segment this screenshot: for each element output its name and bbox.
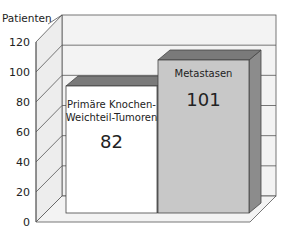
bar-side [249,50,261,213]
bar-label: Primäre Knochen- [67,99,156,110]
bar-top [66,76,169,86]
bar-front [158,60,249,213]
y-axis-ticks: 020406080100120 [9,36,30,229]
bar-label: Metastasen [175,68,233,79]
y-tick-label: 100 [9,66,30,79]
bar-label: Weichteil-Tumoren [66,112,158,123]
bar-2: Metastasen101 [158,50,261,213]
y-axis-label: Patienten [2,12,52,24]
y-tick-label: 40 [16,156,30,169]
bar-top [158,50,261,60]
y-tick-label: 80 [16,96,30,109]
bar-1: Primäre Knochen-Weichteil-Tumoren82 [66,76,169,213]
chart-canvas: 020406080100120 Patienten Primäre Knoche… [0,0,286,240]
y-tick-label: 60 [16,126,30,139]
y-tick-label: 0 [23,216,30,229]
bar-value: 82 [100,131,123,152]
y-tick-label: 120 [9,36,30,49]
bar-chart-3d: 020406080100120 Patienten Primäre Knoche… [0,0,286,240]
y-tick-label: 20 [16,186,30,199]
bar-value: 101 [186,89,220,110]
